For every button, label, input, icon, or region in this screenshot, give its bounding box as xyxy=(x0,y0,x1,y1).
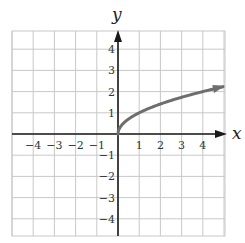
y-tick-label: 3 xyxy=(108,64,115,77)
graph: −4−3−2−112344321−1−2−3−4 y x xyxy=(0,0,245,243)
x-tick-label: −3 xyxy=(46,139,62,152)
y-axis-arrow-icon xyxy=(114,30,122,42)
y-tick-label: 1 xyxy=(108,107,115,120)
y-tick-label: −3 xyxy=(99,192,115,205)
x-axis-label: x xyxy=(232,123,242,143)
x-tick-label: −4 xyxy=(25,139,41,152)
y-tick-label: 2 xyxy=(108,86,115,99)
x-tick-label: 3 xyxy=(178,139,185,152)
sqrt-curve xyxy=(118,85,225,134)
x-tick-label: −2 xyxy=(67,139,83,152)
y-tick-label: −1 xyxy=(99,149,115,162)
x-tick-label: 4 xyxy=(199,139,206,152)
y-tick-label: −4 xyxy=(99,213,115,226)
y-axis-label: y xyxy=(111,4,122,24)
y-tick-label: 4 xyxy=(108,43,115,56)
x-tick-label: 1 xyxy=(136,139,143,152)
y-tick-label: −2 xyxy=(99,170,115,183)
x-tick-label: 2 xyxy=(157,139,164,152)
